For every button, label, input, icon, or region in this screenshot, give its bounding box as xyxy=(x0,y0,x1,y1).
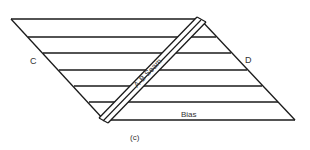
bias-cut-diagram: C D A-B Seam Bias (c) xyxy=(0,0,310,150)
label-d: D xyxy=(245,55,252,65)
caption: (c) xyxy=(130,133,140,142)
label-c: C xyxy=(30,56,37,66)
label-seam: A-B Seam xyxy=(132,57,164,90)
label-bias: Bias xyxy=(181,110,197,119)
